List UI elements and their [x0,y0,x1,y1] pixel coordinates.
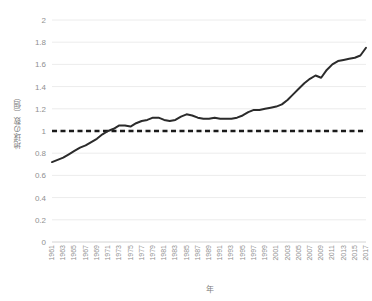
chart-container: 地球の数（個） 00.20.40.60.811.21.41.61.82 1961… [0,0,372,301]
x-axis-title: 年 [52,283,368,294]
plot-area [0,0,372,301]
